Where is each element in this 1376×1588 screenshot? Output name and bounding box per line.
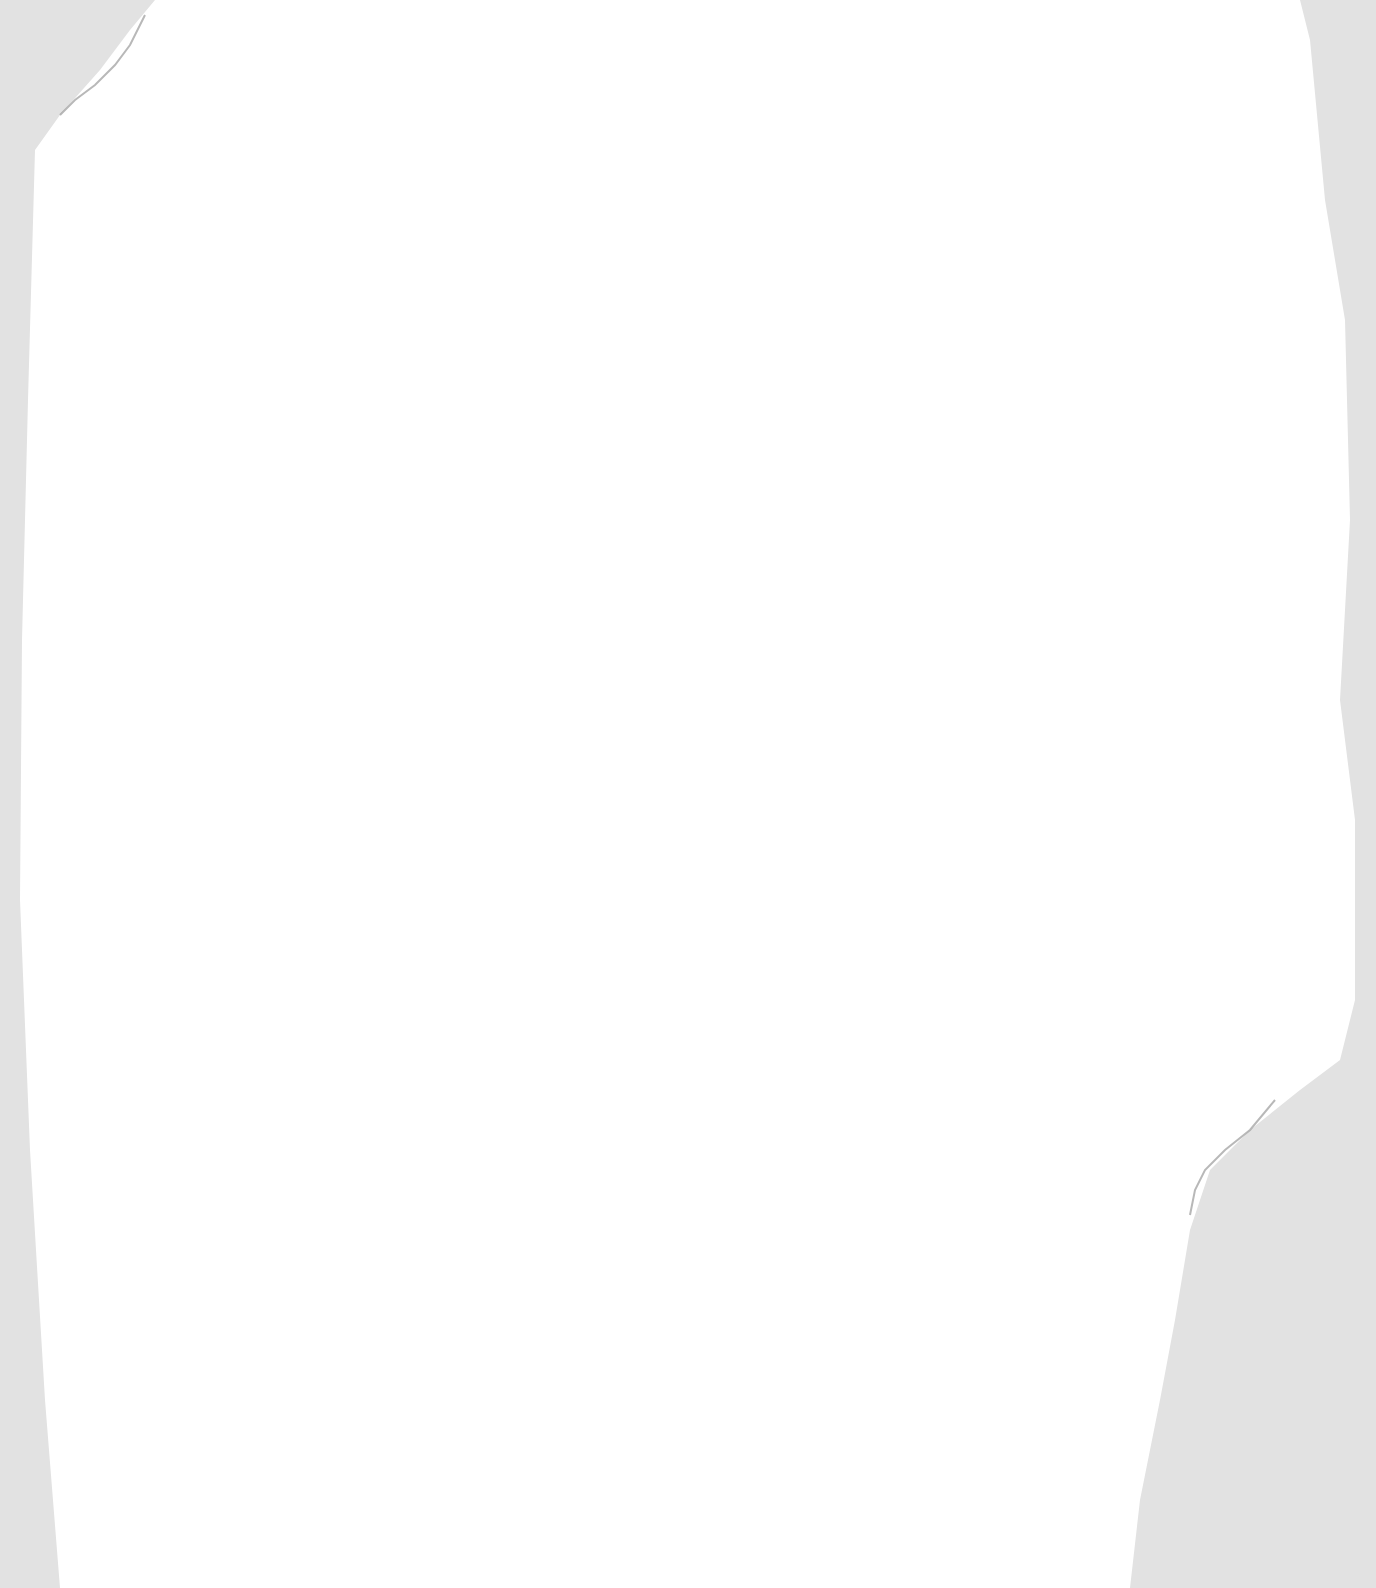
torn-paper-sheet <box>0 0 1376 1588</box>
paper-shape <box>20 0 1355 1588</box>
